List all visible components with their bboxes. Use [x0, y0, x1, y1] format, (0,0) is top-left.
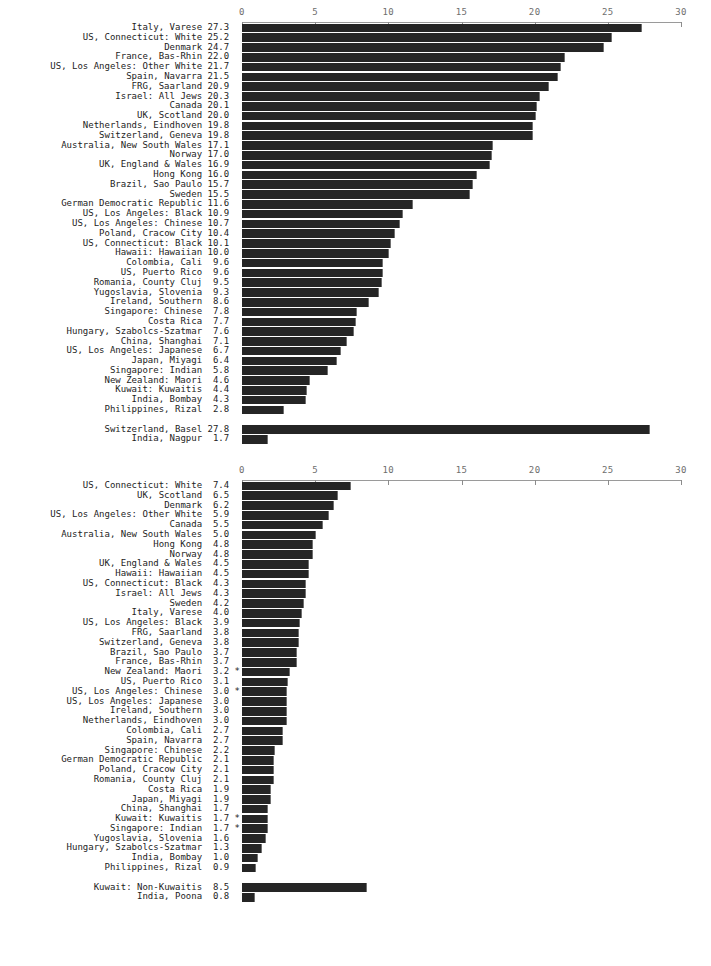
bar-row[interactable]: Singapore: Chinese 7.8 [0, 307, 711, 317]
bar-row[interactable]: Switzerland, Basel 27.8 [0, 425, 711, 435]
bar-row[interactable]: US, Los Angeles: Other White 21.7 [0, 62, 711, 72]
bar-row[interactable]: Israel: All Jews 20.3 [0, 92, 711, 102]
category-name: Romania, County Cluj [94, 277, 202, 287]
bar-row[interactable]: Kuwait: Non-Kuwaitis 8.5 [0, 883, 711, 893]
bar-row[interactable]: Sweden 4.2 [0, 599, 711, 609]
bar-row[interactable]: India, Poona 0.8 [0, 892, 711, 902]
bar-row[interactable]: FRG, Saarland 20.9 [0, 82, 711, 92]
bar-row[interactable]: Costa Rica 1.9 [0, 785, 711, 795]
value-footnote-marker [229, 833, 240, 843]
category-value: 1.3 [202, 842, 229, 852]
bar-row[interactable]: Romania, County Cluj 2.1 [0, 775, 711, 785]
bar-row[interactable]: Israel: All Jews 4.3 [0, 589, 711, 599]
value-footnote-marker [229, 287, 240, 297]
bar-row[interactable]: Spain, Navarra 21.5 [0, 72, 711, 82]
bar-row[interactable]: China, Shanghai 1.7 [0, 804, 711, 814]
bar-row-label: Costa Rica 7.7 [148, 316, 240, 326]
category-name: Singapore: Chinese [105, 306, 203, 316]
bar-row[interactable]: Hungary, Szabolcs-Szatmar 1.3 [0, 843, 711, 853]
bar-row[interactable]: UK, Scotland 6.5 [0, 491, 711, 501]
bar-row[interactable]: Yugoslavia, Slovenia 9.3 [0, 288, 711, 298]
bar-row[interactable]: US, Connecticut: Black 10.1 [0, 239, 711, 249]
bar-row[interactable]: US, Connecticut: White 25.2 [0, 33, 711, 43]
bar-row[interactable]: Japan, Miyagi 6.4 [0, 356, 711, 366]
bar-row[interactable]: Hungary, Szabolcs-Szatmar 7.6 [0, 327, 711, 337]
bar-row[interactable]: Colombia, Cali 9.6 [0, 258, 711, 268]
bar-row[interactable]: UK, England & Wales 4.5 [0, 559, 711, 569]
bar-row[interactable]: Philippines, Rizal 0.9 [0, 863, 711, 873]
bar-row[interactable]: Hong Kong 4.8 [0, 540, 711, 550]
bar [242, 736, 282, 745]
category-name: Switzerland, Geneva [99, 637, 202, 647]
bar-row[interactable]: US, Los Angeles: Other White 5.9 [0, 510, 711, 520]
category-name: Sweden [170, 189, 203, 199]
axis-tick-label: 20 [529, 8, 541, 17]
bar-row[interactable]: Japan, Miyagi 1.9 [0, 795, 711, 805]
bar [242, 883, 366, 892]
category-value: 4.0 [202, 607, 229, 617]
category-name: Netherlands, Eindhoven [83, 715, 202, 725]
bar-row[interactable]: Philippines, Rizal 2.8 [0, 405, 711, 415]
bar-row-label: UK, England & Wales 4.5 [99, 558, 240, 568]
bar-end-edge [286, 717, 287, 726]
category-value: 22.0 [202, 51, 229, 61]
bar-row[interactable]: Kuwait: Kuwaitis 1.7 * [0, 814, 711, 824]
category-value: 7.4 [202, 480, 229, 490]
bar-row-label: Italy, Varese 4.0 [132, 607, 240, 617]
bar-end-edge [267, 815, 268, 824]
bar-end-edge [382, 259, 383, 268]
bar-row[interactable]: India, Nagpur 1.7 [0, 434, 711, 444]
bar-row-label: Israel: All Jews 20.3 [115, 91, 240, 101]
bar-row[interactable]: New Zealand: Maori 4.6 [0, 376, 711, 386]
value-footnote-marker [229, 656, 240, 666]
bar [242, 707, 286, 716]
bar-row-label: Ireland, Southern 3.0 [110, 705, 240, 715]
bar-row-label: China, Shanghai 7.1 [121, 336, 240, 346]
category-name: New Zealand: Maori [105, 666, 203, 676]
category-name: Romania, County Cluj [94, 774, 202, 784]
value-footnote-marker [229, 336, 240, 346]
category-value: 27.3 [202, 22, 229, 32]
bar [242, 511, 328, 520]
bar-row[interactable]: New Zealand: Maori 3.2 * [0, 667, 711, 677]
value-footnote-marker [229, 764, 240, 774]
category-name: Norway [170, 549, 203, 559]
figure-page: { "axis": { "ticks": [0, 5, 10, 15, 20, … [0, 0, 711, 966]
bar-row[interactable]: US, Connecticut: White 7.4 [0, 481, 711, 491]
axis-tick-label: 15 [456, 8, 468, 17]
bar-row-label: FRG, Saarland 20.9 [132, 81, 240, 91]
bar-row[interactable]: Brazil, Sao Paulo 15.7 [0, 180, 711, 190]
bar-row-label: Hawaii: Hawaiian 4.5 [115, 568, 240, 578]
bar-row[interactable]: US, Connecticut: Black 4.3 [0, 579, 711, 589]
category-name: Ireland, Southern [110, 296, 202, 306]
bar-row[interactable]: Kuwait: Kuwaitis 4.4 [0, 385, 711, 395]
bar-row[interactable]: US, Los Angeles: Japanese 3.0 [0, 697, 711, 707]
bar-row[interactable]: Brazil, Sao Paulo 3.7 [0, 648, 711, 658]
bar-row-label: German Democratic Republic 2.1 [61, 754, 240, 764]
bar [242, 131, 532, 140]
bar-row[interactable]: Switzerland, Geneva 3.8 [0, 638, 711, 648]
bar [242, 151, 491, 160]
bar-row[interactable]: Hong Kong 16.0 [0, 170, 711, 180]
bar-row[interactable]: US, Los Angeles: Japanese 6.7 [0, 346, 711, 356]
bar-row[interactable]: Colombia, Cali 2.7 [0, 726, 711, 736]
bar-row[interactable]: Hawaii: Hawaiian 10.0 [0, 248, 711, 258]
category-name: US, Los Angeles: Chinese [72, 686, 202, 696]
axis-tick-label: 30 [675, 8, 687, 17]
bar [242, 580, 305, 589]
bar [242, 73, 557, 82]
bar-row[interactable]: UK, England & Wales 16.9 [0, 160, 711, 170]
category-value: 2.1 [202, 774, 229, 784]
category-name: US, Connecticut: White [83, 480, 202, 490]
bar-row[interactable]: Australia, New South Wales 5.0 [0, 530, 711, 540]
bar-row[interactable]: Netherlands, Eindhoven 3.0 [0, 716, 711, 726]
bar [242, 785, 270, 794]
category-name: India, Nagpur [132, 433, 202, 443]
bar-row[interactable]: Australia, New South Wales 17.1 [0, 141, 711, 151]
category-name: US, Puerto Rico [121, 267, 202, 277]
value-footnote-marker: * [229, 686, 240, 696]
axis-tick-label: 25 [602, 8, 614, 17]
bar-row[interactable]: Canada 20.1 [0, 101, 711, 111]
bar-row[interactable]: Denmark 24.7 [0, 43, 711, 53]
bar-row[interactable]: US, Los Angeles: Black 3.9 [0, 618, 711, 628]
